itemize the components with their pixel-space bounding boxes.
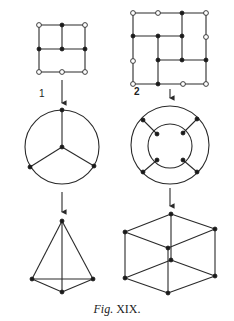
tetrahedron	[30, 219, 95, 294]
figure-caption: Fig. XIX.	[0, 302, 234, 317]
figure-diagram	[0, 0, 234, 321]
ring-graph-2	[131, 106, 209, 184]
caption-prefix: Fig.	[94, 302, 114, 316]
circle-graph-1	[25, 108, 99, 184]
panel-label-1: 1	[39, 88, 45, 99]
caption-number: XIX.	[116, 302, 140, 316]
grid-graph-1	[37, 23, 88, 75]
cube	[123, 212, 217, 295]
grid-graph-2	[131, 11, 209, 87]
panel-label-2: 2	[134, 86, 140, 97]
